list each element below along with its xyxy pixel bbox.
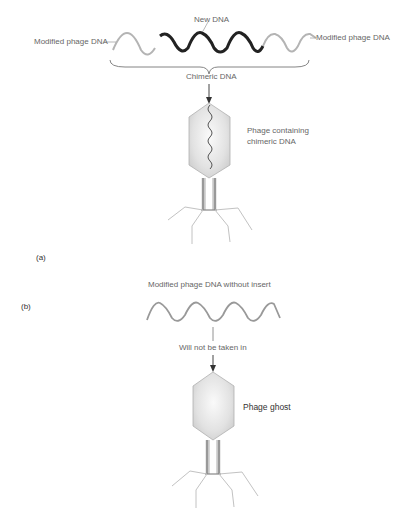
phage-ghost-label: Phage ghost — [243, 403, 291, 412]
phage-ghost — [172, 372, 258, 508]
new-dna-label: New DNA — [194, 16, 229, 24]
panel-b-title: Modified phage DNA without insert — [148, 281, 271, 289]
will-not-be-taken-in-label: Will not be taken in — [179, 344, 247, 352]
phage-containing-label-1: Phage containing — [247, 127, 309, 135]
modified-phage-dna-right-label: Modified phage DNA — [316, 34, 390, 42]
arrow-down-icon-b — [210, 355, 216, 372]
chimeric-dna-strand — [104, 22, 316, 55]
panel-a-label: (a) — [36, 253, 46, 262]
arrow-down-icon — [206, 84, 212, 104]
chimeric-dna-label: Chimeric DNA — [186, 73, 237, 81]
phage-with-chimeric-dna — [168, 103, 252, 244]
modified-phage-dna-left-label: Modified phage DNA — [34, 38, 108, 46]
panel-b-label: (b) — [21, 302, 31, 311]
phage-dna-without-insert — [147, 303, 280, 321]
phage-containing-label-2: chimeric DNA — [247, 138, 296, 146]
